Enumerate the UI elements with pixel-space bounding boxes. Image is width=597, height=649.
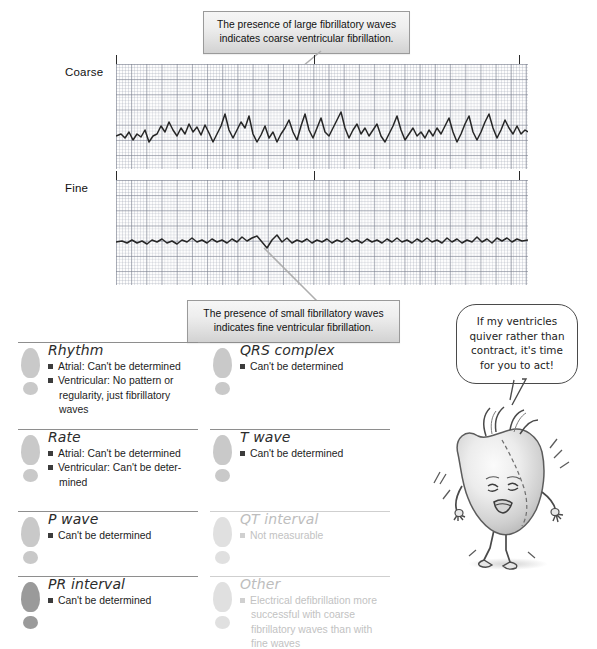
section-divider xyxy=(18,511,198,512)
finding-item: Can't be determined xyxy=(48,529,198,543)
footprint-icon xyxy=(210,517,234,564)
finding-item: Can't be determined xyxy=(48,594,198,608)
fine-callout-line-2: indicates fine ventricular fibrillation. xyxy=(196,321,391,335)
ecg-tick xyxy=(519,55,520,64)
ecg-tick xyxy=(116,171,117,180)
speech-bubble: If my ventricles quiver rather than cont… xyxy=(456,304,578,384)
finding-group-p-wave: P wave Can't be determined xyxy=(18,511,198,574)
finding-item: Can't be determined xyxy=(240,360,390,374)
section-divider xyxy=(210,511,390,512)
bullet-marker xyxy=(240,533,245,538)
finding-group-qt-interval: QT interval Not measurable xyxy=(210,511,390,574)
footprint-icon xyxy=(210,435,234,482)
ecg-strip-coarse xyxy=(116,64,528,169)
footprint-heel xyxy=(23,382,38,395)
footprint-heel xyxy=(215,551,230,564)
finding-item: Ventricular: No pattern or regularity, j… xyxy=(48,374,198,417)
footprint-heel xyxy=(23,616,38,629)
footprint-sole xyxy=(21,435,40,465)
findings-left-column: Rhythm Atrial: Can't be determined Ventr… xyxy=(18,340,198,639)
finding-title: T wave xyxy=(240,429,390,445)
speech-bubble-line-1: If my ventricles xyxy=(467,314,567,329)
coarse-callout-line-2: indicates coarse ventricular fibrillatio… xyxy=(212,32,401,46)
bullet-marker xyxy=(48,378,53,383)
finding-group-qrs-complex: QRS complex Can't be determined xyxy=(210,342,390,427)
footprint-sole xyxy=(213,517,232,547)
finding-title: Other xyxy=(240,576,390,592)
strip-label-fine: Fine xyxy=(65,182,88,194)
footprint-heel xyxy=(23,551,38,564)
quivering-heart-character xyxy=(432,392,592,572)
finding-item-text: Can't be determined xyxy=(58,530,151,541)
finding-item-text: Electrical defibrillation more successfu… xyxy=(250,595,377,649)
finding-item: Can't be determined xyxy=(240,447,390,461)
finding-group-t-wave: T wave Can't be determined xyxy=(210,429,390,509)
footprint-heel xyxy=(215,616,230,629)
finding-item-text: Atrial: Can't be determined xyxy=(58,448,181,459)
section-divider xyxy=(18,576,198,577)
section-divider xyxy=(18,342,198,343)
finding-item-text: Atrial: Can't be determined xyxy=(58,361,181,372)
footprint-heel xyxy=(23,469,38,482)
bullet-marker xyxy=(48,451,53,456)
footprint-sole xyxy=(213,348,232,378)
footprint-heel xyxy=(215,382,230,395)
findings-right-column: QRS complex Can't be determined T wave C… xyxy=(210,340,390,649)
finding-group-rhythm: Rhythm Atrial: Can't be determined Ventr… xyxy=(18,342,198,427)
speech-bubble-line-4: for you to act! xyxy=(467,358,567,373)
footprint-sole xyxy=(213,435,232,465)
footprint-icon xyxy=(18,517,42,564)
finding-item-text: Ventricular: No pattern or regularity, j… xyxy=(58,375,174,415)
bullet-marker xyxy=(48,364,53,369)
bullet-marker xyxy=(240,598,245,603)
ecg-reference-page: The presence of large fibrillatory waves… xyxy=(0,0,597,649)
fine-callout-leader-line xyxy=(262,246,332,306)
footprint-icon xyxy=(210,348,234,395)
bullet-marker xyxy=(240,364,245,369)
finding-title: QT interval xyxy=(240,511,390,527)
speech-bubble-line-2: quiver rather than xyxy=(467,329,567,344)
footprint-icon xyxy=(210,582,234,629)
finding-item-text: Ventricular: Can't be deter-mined xyxy=(58,462,181,487)
finding-item: Ventricular: Can't be deter-mined xyxy=(48,461,198,490)
ecg-trace-coarse xyxy=(116,64,528,169)
bullet-marker xyxy=(48,533,53,538)
coarse-callout-line-1: The presence of large fibrillatory waves xyxy=(212,18,401,32)
ecg-tick xyxy=(519,171,520,180)
section-divider xyxy=(210,429,390,430)
ecg-tick xyxy=(116,55,117,64)
fine-callout: The presence of small fibrillatory waves… xyxy=(187,300,400,343)
footprint-sole xyxy=(21,517,40,547)
finding-item-text: Can't be determined xyxy=(58,595,151,606)
finding-title: QRS complex xyxy=(240,342,390,358)
finding-group-rate: Rate Atrial: Can't be determined Ventric… xyxy=(18,429,198,509)
finding-item: Atrial: Can't be determined xyxy=(48,447,198,461)
finding-title: P wave xyxy=(48,511,198,527)
bullet-marker xyxy=(48,598,53,603)
coarse-callout: The presence of large fibrillatory waves… xyxy=(203,11,410,54)
finding-item-text: Not measurable xyxy=(250,530,323,541)
finding-item-text: Can't be determined xyxy=(250,361,343,372)
finding-item: Electrical defibrillation more successfu… xyxy=(240,594,390,649)
finding-title: PR interval xyxy=(48,576,198,592)
fine-callout-line-1: The presence of small fibrillatory waves xyxy=(196,307,391,321)
finding-item: Atrial: Can't be determined xyxy=(48,360,198,374)
finding-title: Rhythm xyxy=(48,342,198,358)
finding-item-text: Can't be determined xyxy=(250,448,343,459)
finding-group-pr-interval: PR interval Can't be determined xyxy=(18,576,198,639)
footprint-sole xyxy=(21,582,40,612)
footprint-icon xyxy=(18,348,42,395)
footprint-heel xyxy=(215,469,230,482)
footprint-sole xyxy=(213,582,232,612)
bullet-marker xyxy=(48,465,53,470)
section-divider xyxy=(18,429,198,430)
section-divider xyxy=(210,342,390,343)
section-divider xyxy=(210,576,390,577)
finding-group-other: Other Electrical defibrillation more suc… xyxy=(210,576,390,649)
footprint-sole xyxy=(21,348,40,378)
finding-item: Not measurable xyxy=(240,529,390,543)
footprint-icon xyxy=(18,435,42,482)
ecg-tick xyxy=(314,171,315,180)
bullet-marker xyxy=(240,451,245,456)
footprint-icon xyxy=(18,582,42,629)
